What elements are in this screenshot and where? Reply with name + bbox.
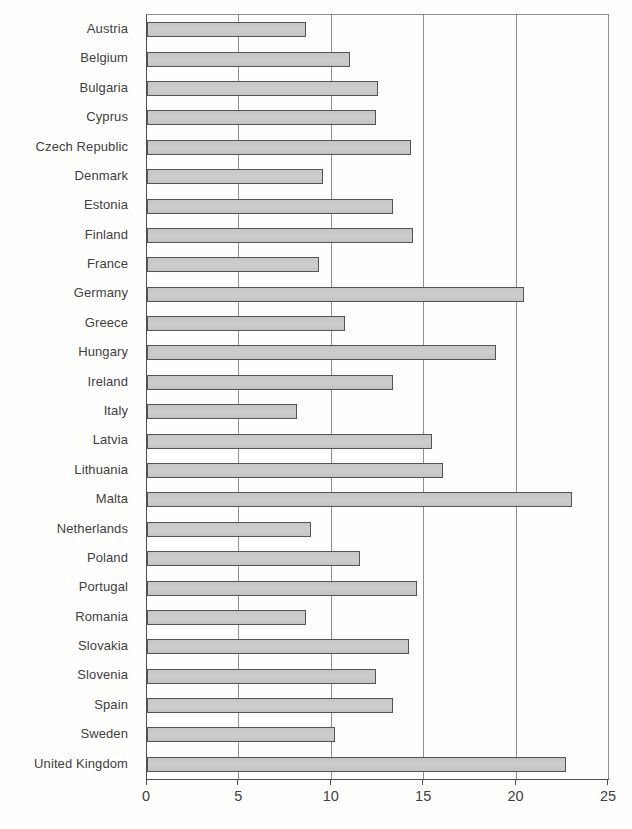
y-axis-label: Finland [0, 220, 128, 249]
y-axis-label: Ireland [0, 367, 128, 396]
bar-poland [147, 551, 360, 566]
x-tick-label: 25 [586, 788, 630, 804]
bar-latvia [147, 434, 432, 449]
bar-lithuania [147, 463, 443, 478]
y-axis-label: Lithuania [0, 455, 128, 484]
plot-area [146, 14, 609, 780]
x-tick-label: 20 [494, 788, 538, 804]
bar-austria [147, 22, 306, 37]
x-tick-label: 15 [401, 788, 445, 804]
bar-cyprus [147, 110, 376, 125]
bar-estonia [147, 199, 393, 214]
bar-sweden [147, 727, 335, 742]
bar-greece [147, 316, 345, 331]
bar-slovenia [147, 669, 376, 684]
gridline [608, 15, 609, 779]
bar-slovakia [147, 639, 409, 654]
gridline [238, 15, 239, 779]
bar-germany [147, 287, 524, 302]
bar-chart: AustriaBelgiumBulgariaCyprusCzech Republ… [0, 0, 632, 829]
bar-denmark [147, 169, 323, 184]
bar-finland [147, 228, 413, 243]
y-axis-label: Bulgaria [0, 73, 128, 102]
gridline [331, 15, 332, 779]
x-tick-label: 5 [216, 788, 260, 804]
y-axis-label: United Kingdom [0, 749, 128, 778]
y-axis-label: Poland [0, 543, 128, 572]
bar-bulgaria [147, 81, 378, 96]
bar-italy [147, 404, 297, 419]
bar-united-kingdom [147, 757, 566, 772]
bar-france [147, 257, 319, 272]
bar-malta [147, 492, 572, 507]
y-axis-label: Estonia [0, 190, 128, 219]
bar-czech-republic [147, 140, 411, 155]
gridline [423, 15, 424, 779]
bar-netherlands [147, 522, 311, 537]
y-axis-label: Austria [0, 14, 128, 43]
y-axis-label: Germany [0, 278, 128, 307]
x-tick-label: 0 [124, 788, 168, 804]
bar-spain [147, 698, 393, 713]
bar-ireland [147, 375, 393, 390]
y-axis-label: Portugal [0, 572, 128, 601]
y-axis-label: Czech Republic [0, 132, 128, 161]
y-axis-label: Latvia [0, 425, 128, 454]
y-axis-label: France [0, 249, 128, 278]
y-axis-label: Belgium [0, 43, 128, 72]
y-axis-label: Slovakia [0, 631, 128, 660]
y-axis-label: Hungary [0, 337, 128, 366]
y-axis-label: Romania [0, 602, 128, 631]
x-tick-label: 10 [309, 788, 353, 804]
y-axis-label: Greece [0, 308, 128, 337]
gridline [516, 15, 517, 779]
bar-belgium [147, 52, 350, 67]
y-axis-label: Netherlands [0, 514, 128, 543]
y-axis-label: Spain [0, 690, 128, 719]
y-axis-label: Denmark [0, 161, 128, 190]
y-axis-label: Italy [0, 396, 128, 425]
y-axis-label: Malta [0, 484, 128, 513]
bar-hungary [147, 345, 496, 360]
bar-romania [147, 610, 306, 625]
y-axis-label: Sweden [0, 719, 128, 748]
bar-portugal [147, 581, 417, 596]
y-axis-label: Cyprus [0, 102, 128, 131]
y-axis-label: Slovenia [0, 660, 128, 689]
